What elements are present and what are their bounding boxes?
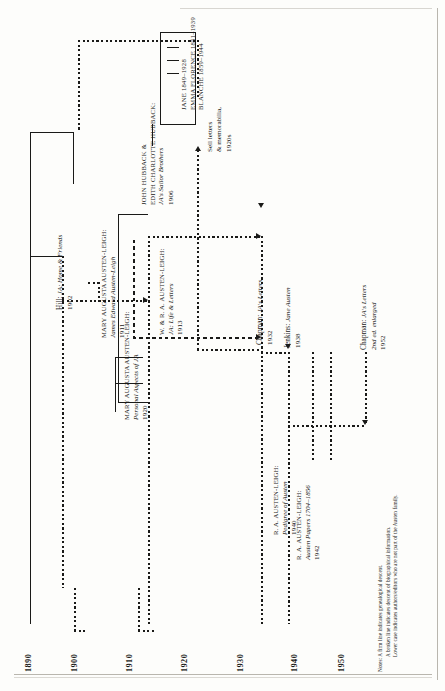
hill-year: 1902: [66, 235, 75, 310]
broken-line-tail-1900: [74, 588, 76, 630]
ral-pedigree-name: R. A. Austen-Leigh:: [272, 465, 281, 535]
notes-line-3: Lower case indicates authors/editors who…: [392, 494, 400, 672]
mal-personal-name: Mary Augusta Austen-Leigh:: [123, 311, 132, 420]
hubback-title: JA's Sailor Brothers: [157, 103, 166, 205]
jenkins-title: Jane Austen: [284, 288, 292, 322]
arrowhead-chapman-1952-down: [362, 420, 368, 425]
arrowhead-sell-up: [195, 146, 201, 151]
jenkins-name: Jenkins:: [284, 324, 292, 348]
entry-chapman-1952: Chapman: JA's Letters 2nd ed. enlarged 1…: [360, 285, 388, 350]
axis-tick-1890: 1890: [24, 654, 34, 672]
axis-tick-1930: 1930: [236, 654, 246, 672]
mal-personal-year: 1920: [141, 311, 150, 420]
firm-line-branch-a: [73, 132, 74, 184]
wral-year: 1913: [176, 248, 185, 335]
broken-line-wral-to-chapman: [148, 236, 260, 238]
broken-line-ral-column: [312, 352, 314, 462]
sibling-emma: Emma Florence 1851–1939: [189, 17, 198, 110]
notes-line-1: A firm line indicates genealogical desce…: [377, 565, 383, 657]
arrowhead-to-chapman-1932: [256, 233, 261, 239]
broken-line-chapman-to-jenkins: [261, 352, 289, 354]
entry-wral-1913: W. & R. A. Austen-Leigh: JA: Life & Lett…: [158, 248, 185, 335]
broken-line-ral2-column: [330, 352, 332, 462]
mal-jeal-name: Mary Augusta Austen-Leigh:: [100, 229, 109, 338]
chapman32-title: JA's Letters: [256, 280, 264, 313]
sell-line-2: & memorabilia,: [215, 107, 224, 152]
figure-plate: 1890 1900 1910 1920 1930 1940 1950: [0, 0, 445, 691]
hubback-name-2: Edith Charlotte Hubback:: [149, 103, 158, 205]
hubback-year: 1906: [167, 103, 176, 205]
chapman52-title-1: JA's Letters: [360, 285, 368, 318]
broken-line-tail-1900-foot: [74, 630, 88, 632]
firm-line-fork-spine: [115, 357, 116, 412]
page-edge-top: [180, 8, 432, 9]
entry-hubback-daughters: Jane 1849–1928 Emma Florence 1851–1939 B…: [180, 17, 206, 110]
chapman52-year: 1952: [379, 285, 388, 350]
broken-line-tail-1910-foot: [138, 630, 154, 632]
wral-name: W. & R. A. Austen-Leigh:: [158, 248, 167, 335]
firm-line-spine-top: [30, 132, 74, 133]
axis-tick-1940: 1940: [290, 654, 300, 672]
firm-line-prong-blanche: [167, 73, 179, 74]
broken-line-sell-descent: [197, 150, 199, 350]
chapman32-name: Chapman:: [256, 315, 264, 345]
ral-papers-title: Austen Papers 1704–1856: [304, 485, 313, 560]
arrowhead-chapman-down: [258, 203, 264, 208]
broken-line-tail-1910: [138, 588, 140, 630]
notes-line-2: A broken line indicates descent of biogr…: [385, 494, 393, 672]
sibling-blanche: Blanche 1859–1944: [197, 17, 206, 110]
mal-personal-title: Personal Aspects of JA: [132, 311, 141, 420]
entry-jenkins-1938: Jenkins: Jane Austen 1938: [284, 288, 303, 349]
dashed-line-personal-to-chapman: [133, 337, 261, 339]
page-edge-bottom: [14, 674, 432, 675]
entry-hubback-1906: John Hubback & Edith Charlotte Hubback: …: [140, 103, 176, 205]
sibling-jane: Jane 1849–1928: [180, 17, 189, 110]
arrowhead-to-wral: [143, 297, 148, 303]
sell-year: 1920s: [225, 107, 234, 152]
mal-jeal-title: James Edward Austen-Leigh: [109, 229, 118, 338]
axis-tick-1950: 1950: [337, 654, 347, 672]
ral-pedigree-title: Pedigree of Austen: [281, 465, 290, 535]
notes-label: Notes:: [377, 658, 383, 672]
hubback-name-1: John Hubback &: [140, 103, 149, 205]
broken-line-wral-column: [148, 236, 150, 624]
sell-line-1: Sell letters: [206, 107, 215, 152]
axis-tick-1900: 1900: [70, 654, 80, 672]
axis-tick-1920: 1920: [180, 654, 190, 672]
ral-papers-name: R. A. Austen-Leigh:: [295, 485, 304, 560]
ral-papers-year: 1942: [313, 485, 322, 560]
firm-line-prong-emma: [167, 60, 179, 61]
entry-mal-personal-1920: Mary Augusta Austen-Leigh: Personal Aspe…: [123, 311, 150, 420]
broken-line-chapman52-riser: [365, 352, 367, 426]
wral-title: JA: Life & Letters: [167, 248, 176, 335]
firm-line-al-top: [118, 214, 148, 215]
page-edge-bottom-2: [14, 677, 432, 678]
chapman52-title-2: 2nd ed. enlarged: [370, 285, 379, 350]
notes-block: Notes: A firm line indicates genealogica…: [377, 494, 400, 672]
chapman52-name: Chapman:: [360, 320, 368, 350]
hill-name: Hill:: [56, 296, 64, 310]
page-edge-right: [437, 8, 438, 680]
firm-line-prong-jane: [167, 47, 179, 48]
broken-line-top-left-riser: [78, 40, 80, 132]
entry-chapman-1932: Chapman: JA's Letters 1932: [256, 280, 275, 345]
entry-hill-1902: Hill: JA: Home & Friends 1902: [56, 235, 75, 310]
firm-line-main-spine: [30, 132, 31, 624]
broken-line-ral-to-chapman52: [288, 425, 366, 427]
entry-sell-letters: Sell letters & memorabilia, 1920s: [206, 107, 234, 152]
axis-tick-1910: 1910: [125, 654, 135, 672]
hill-title: JA: Home & Friends: [56, 235, 64, 295]
entry-ral-papers-1942: R. A. Austen-Leigh: Austen Papers 1704–1…: [295, 485, 322, 560]
chapman32-year: 1932: [266, 280, 275, 345]
broken-line-sell-to-chapman: [197, 349, 259, 351]
jenkins-year: 1938: [294, 288, 303, 349]
broken-line-jog-arm: [88, 282, 100, 284]
